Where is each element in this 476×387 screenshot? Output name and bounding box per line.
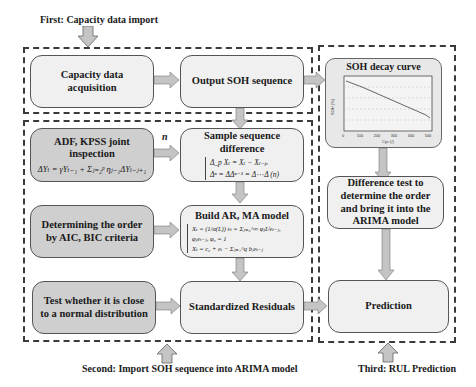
arrow-label-n: n	[162, 131, 168, 142]
normal-test-label: Test whether it is close to a normal dis…	[39, 295, 149, 320]
right-arrow-2	[154, 145, 180, 161]
build-ar-ma-label: Build AR, MA model	[195, 210, 289, 223]
capacity-acquisition-label: Capacity data acquisition	[37, 69, 147, 94]
svg-text:100: 100	[357, 133, 364, 138]
down-arrow-build-to-residuals	[232, 258, 248, 282]
ar-formula: Xₜ = (1/α(L)) εₜ = Σⱼ₌₀^∞ φⱼLʲεₜ₋ⱼ, φⱼεₜ…	[192, 224, 297, 244]
build-ar-ma-box: Build AR, MA model Xₜ = (1/α(L)) εₜ = Σⱼ…	[180, 205, 304, 258]
prediction-label: Prediction	[365, 300, 411, 313]
sample-diff-label: Sample sequence difference	[187, 130, 297, 155]
adf-formula: ΔYₜ = γYₜ₋₁ + Σⱼ₌₂ᵖ ηⱼ₋₁ΔYₜ₋ⱼ₊₁	[38, 164, 147, 174]
up-arrow-third	[378, 343, 398, 363]
aic-bic-box: Determining the order by AIC, BIC criter…	[30, 205, 154, 258]
capacity-acquisition-box: Capacity data acquisition	[30, 55, 154, 108]
svg-text:0: 0	[342, 133, 345, 138]
std-residuals-box: Standardized Residuals	[180, 281, 304, 334]
ma-formula: Xₜ = c₀ + εₜ − Σⱼ₌₁^q bⱼεₜ₋ⱼ	[192, 244, 297, 254]
prediction-box: Prediction	[328, 280, 449, 333]
stage-third-label: Third: RUL Prediction	[358, 363, 456, 374]
sample-diff-formula-2: Δⁿ = ΔΔⁿ⁻¹ = Δ⋯Δ (n)	[210, 169, 279, 180]
soh-decay-chart: 0 100 200 300 400 500 Cyc (/) SOH (%)	[330, 73, 438, 145]
svg-text:Cyc (/): Cyc (/)	[382, 139, 394, 144]
chart-title: SOH decay curve	[326, 61, 441, 72]
adf-kpss-label: ADF, KPSS joint inspection	[37, 136, 147, 161]
sample-diff-formula: Δ_p Xₜ = Xₜ − Xₜ₋ₚ Δⁿ = ΔΔⁿ⁻¹ = Δ⋯Δ (n)	[205, 157, 279, 180]
stage-first-label: First: Capacity data import	[40, 14, 158, 25]
sample-diff-box: Sample sequence difference Δ_p Xₜ = Xₜ −…	[180, 128, 304, 182]
right-arrow-3	[154, 222, 180, 238]
svg-text:500: 500	[425, 133, 432, 138]
output-soh-label: Output SOH sequence	[192, 75, 292, 88]
svg-text:200: 200	[374, 133, 381, 138]
svg-text:400: 400	[408, 133, 415, 138]
down-arrow-diff-to-build	[232, 182, 248, 204]
down-arrow-first	[78, 26, 98, 48]
ar-ma-formulas: Xₜ = (1/α(L)) εₜ = Σⱼ₌₀^∞ φⱼLʲεₜ₋ⱼ, φⱼεₜ…	[187, 224, 297, 253]
stage-second-label: Second: Import SOH sequence into ARIMA m…	[82, 363, 298, 374]
sample-diff-formula-1: Δ_p Xₜ = Xₜ − Xₜ₋ₚ	[210, 157, 279, 168]
soh-decay-chart-box: SOH decay curve 0 100 200 300 400 500 Cy…	[325, 58, 442, 148]
aic-bic-label: Determining the order by AIC, BIC criter…	[37, 219, 147, 244]
adf-kpss-box: ADF, KPSS joint inspection ΔYₜ = γYₜ₋₁ +…	[30, 128, 154, 182]
right-arrow-4	[156, 298, 181, 314]
diff-test-box: Difference test to determine the order a…	[327, 176, 444, 229]
down-arrow-output-to-diff	[232, 108, 248, 130]
diff-test-label: Difference test to determine the order a…	[334, 177, 437, 227]
down-arrow-diff-test-to-prediction	[378, 229, 394, 281]
right-arrow-1	[154, 72, 180, 88]
up-arrow-second	[157, 344, 177, 364]
output-soh-box: Output SOH sequence	[180, 55, 304, 108]
right-arrow-to-prediction	[304, 298, 328, 314]
svg-text:SOH (%): SOH (%)	[330, 98, 335, 115]
svg-text:300: 300	[391, 133, 398, 138]
std-residuals-label: Standardized Residuals	[189, 301, 295, 314]
right-arrow-to-chart	[304, 72, 326, 88]
normal-test-box: Test whether it is close to a normal dis…	[32, 281, 156, 334]
